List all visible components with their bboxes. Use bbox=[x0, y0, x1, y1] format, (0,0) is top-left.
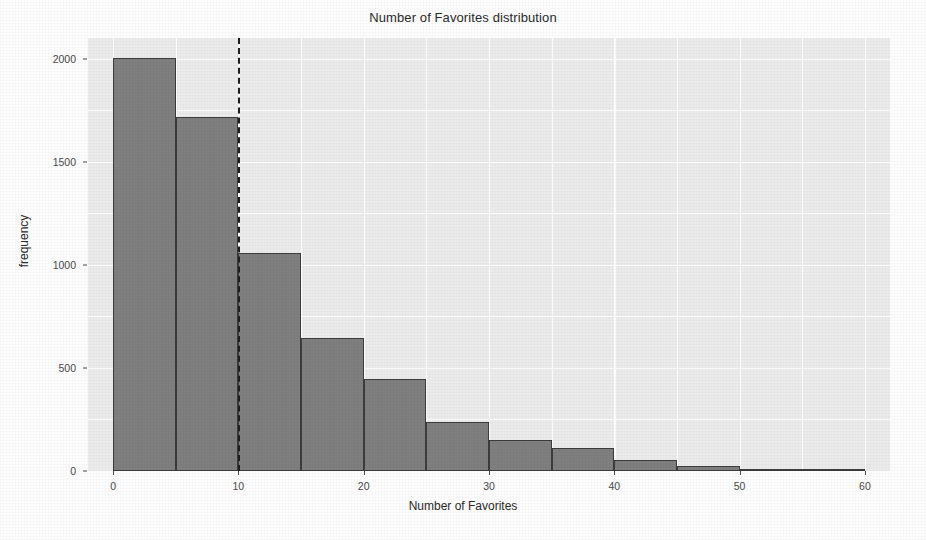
histogram-bar bbox=[802, 469, 865, 471]
histogram-bar bbox=[364, 379, 427, 471]
x-axis-tick-label: 30 bbox=[483, 480, 495, 492]
histogram-bar bbox=[552, 448, 615, 471]
histogram-bar bbox=[301, 338, 364, 471]
x-axis-tick-mark bbox=[614, 471, 615, 475]
histogram-bar bbox=[426, 422, 489, 471]
y-axis-tick-mark bbox=[83, 161, 87, 162]
x-axis-tick-mark bbox=[489, 471, 490, 475]
histogram-bar bbox=[238, 253, 301, 471]
y-axis-tick-label: 500 bbox=[0, 362, 76, 374]
x-axis-tick-label: 60 bbox=[859, 480, 871, 492]
y-axis-tick-mark bbox=[83, 471, 87, 472]
x-axis-tick-mark bbox=[113, 471, 114, 475]
x-axis-tick-label: 50 bbox=[734, 480, 746, 492]
x-axis-tick-label: 40 bbox=[608, 480, 620, 492]
x-axis-tick-label: 10 bbox=[233, 480, 245, 492]
histogram-bar bbox=[614, 460, 677, 471]
x-axis-tick-label: 20 bbox=[358, 480, 370, 492]
x-axis-tick-mark bbox=[364, 471, 365, 475]
chart-figure: Number of Favorites distribution Number … bbox=[0, 0, 926, 540]
x-axis-tick-mark bbox=[740, 471, 741, 475]
chart-title: Number of Favorites distribution bbox=[0, 10, 926, 25]
y-axis-tick-mark bbox=[83, 58, 87, 59]
x-axis-tick-mark bbox=[865, 471, 866, 475]
histogram-bar bbox=[176, 117, 239, 471]
histogram-bar bbox=[677, 466, 740, 471]
y-axis-tick-label: 1000 bbox=[0, 259, 76, 271]
y-axis-tick-mark bbox=[83, 264, 87, 265]
x-axis-label: Number of Favorites bbox=[0, 499, 926, 513]
histogram-bar bbox=[489, 440, 552, 471]
bars-layer bbox=[88, 38, 890, 471]
x-axis-tick-mark bbox=[238, 471, 239, 475]
y-axis-tick-label: 2000 bbox=[0, 53, 76, 65]
y-axis-tick-mark bbox=[83, 367, 87, 368]
reference-line-vertical bbox=[238, 38, 240, 471]
plot-panel bbox=[88, 38, 890, 471]
y-axis-tick-label: 1500 bbox=[0, 156, 76, 168]
histogram-bar bbox=[740, 469, 803, 471]
y-axis-tick-label: 0 bbox=[0, 465, 76, 477]
x-axis-tick-label: 0 bbox=[110, 480, 116, 492]
histogram-bar bbox=[113, 58, 176, 471]
